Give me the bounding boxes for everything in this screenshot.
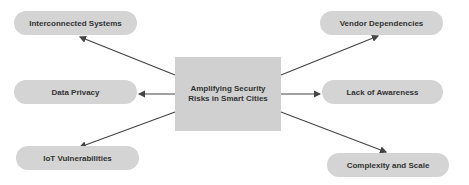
arrow-to-complexity xyxy=(281,112,386,152)
node-label: Lack of Awareness xyxy=(346,88,418,97)
node-iot-vulnerabilities: IoT Vulnerabilities xyxy=(16,146,139,170)
arrow-to-interconnected xyxy=(80,37,175,75)
node-label: Data Privacy xyxy=(51,88,99,97)
node-label: Vendor Dependencies xyxy=(340,19,424,28)
node-vendor-dependencies: Vendor Dependencies xyxy=(320,11,443,35)
node-complexity-and-scale: Complexity and Scale xyxy=(327,153,449,177)
node-label: Interconnected Systems xyxy=(29,19,121,28)
arrow-to-iot xyxy=(80,112,175,147)
node-interconnected-systems: Interconnected Systems xyxy=(14,11,137,35)
node-lack-of-awareness: Lack of Awareness xyxy=(322,80,443,104)
center-label: Amplifying Security Risks in Smart Citie… xyxy=(181,84,275,104)
center-node: Amplifying Security Risks in Smart Citie… xyxy=(175,57,281,131)
node-data-privacy: Data Privacy xyxy=(14,80,137,104)
arrow-to-vendor xyxy=(281,36,378,75)
node-label: Complexity and Scale xyxy=(347,161,430,170)
node-label: IoT Vulnerabilities xyxy=(43,154,112,163)
